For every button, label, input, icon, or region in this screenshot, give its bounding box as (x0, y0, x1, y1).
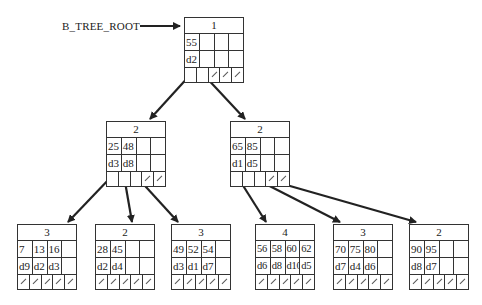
data-cell: d8 (271, 258, 286, 274)
keys-row: 56 58 60 62 (256, 241, 314, 258)
data-cell: d9 (18, 258, 33, 274)
pointer-row (185, 68, 243, 82)
null-pointer-icon (280, 275, 292, 289)
keys-row: 90 95 (410, 241, 468, 258)
key-count: 3 (18, 225, 76, 241)
key-cell: 54 (202, 241, 217, 257)
key-cell: 52 (187, 241, 202, 257)
keys-row: 55 (185, 34, 243, 51)
null-pointer-icon (207, 275, 219, 289)
null-pointer-icon (220, 68, 232, 82)
null-pointer-icon (369, 275, 381, 289)
leaf-node-2: 2 28 45 d2 d4 (95, 224, 155, 290)
key-count: 2 (231, 122, 289, 138)
data-cell (215, 51, 230, 67)
key-cell: 65 (231, 138, 246, 154)
leaf-node-4: 4 56 58 60 62 d6 d8 d10 d5 (255, 224, 315, 290)
key-cell: 70 (334, 241, 349, 257)
null-pointer-icon (172, 275, 184, 289)
key-cell: 85 (246, 138, 261, 154)
key-cell: 90 (410, 241, 425, 257)
key-cell (216, 241, 230, 257)
data-cell (275, 155, 289, 171)
null-pointer-icon (30, 275, 42, 289)
root-node: 1 55 d2 (184, 17, 244, 83)
key-cell (378, 241, 392, 257)
pointer-row (96, 275, 154, 289)
null-pointer-icon (53, 275, 65, 289)
data-row: d2 (185, 51, 243, 68)
data-cell (261, 155, 276, 171)
data-cell: d1 (187, 258, 202, 274)
key-cell: 60 (286, 241, 301, 257)
key-cell (275, 138, 289, 154)
keys-row: 70 75 80 (334, 241, 392, 258)
data-cell (140, 258, 154, 274)
key-cell (229, 34, 243, 50)
null-pointer-icon (219, 275, 230, 289)
data-cell (378, 258, 392, 274)
data-row: d6 d8 d10 d5 (256, 258, 314, 275)
null-pointer-icon (154, 172, 165, 186)
data-cell (229, 51, 243, 67)
key-count: 2 (410, 225, 468, 241)
null-pointer-icon (445, 275, 457, 289)
data-row: d3 d1 d7 (172, 258, 230, 275)
data-cell: d4 (111, 258, 126, 274)
child-pointer (255, 172, 267, 186)
pointer-row (18, 275, 76, 289)
child-pointer (231, 172, 243, 186)
null-pointer-icon (232, 68, 243, 82)
null-pointer-icon (65, 275, 76, 289)
data-row: d7 d4 d6 (334, 258, 392, 275)
data-cell: d7 (425, 258, 440, 274)
key-cell: 48 (122, 138, 137, 154)
data-cell: d5 (246, 155, 261, 171)
key-cell (62, 241, 76, 257)
mid-left-node: 2 25 48 d3 d8 (106, 121, 166, 187)
data-cell: d10 (286, 258, 301, 274)
null-pointer-icon (358, 275, 370, 289)
key-cell (215, 34, 230, 50)
null-pointer-icon (381, 275, 392, 289)
data-cell: d8 (410, 258, 425, 274)
key-cell (140, 241, 154, 257)
data-cell: d2 (185, 51, 200, 67)
data-cell: d3 (107, 155, 122, 171)
pointer-row (172, 275, 230, 289)
key-cell: 28 (96, 241, 111, 257)
null-pointer-icon (120, 275, 132, 289)
keys-row: 65 85 (231, 138, 289, 155)
data-row: d2 d4 (96, 258, 154, 275)
null-pointer-icon (196, 275, 208, 289)
key-cell: 7 (18, 241, 33, 257)
data-cell: d5 (300, 258, 314, 274)
child-pointer (243, 172, 255, 186)
b-tree-root-label: B_TREE_ROOT (62, 20, 140, 32)
leaf-node-6: 2 90 95 d8 d7 (409, 224, 469, 290)
key-count: 2 (96, 225, 154, 241)
null-pointer-icon (278, 172, 289, 186)
null-pointer-icon (143, 275, 154, 289)
data-cell (200, 51, 215, 67)
key-cell (261, 138, 276, 154)
null-pointer-icon (434, 275, 446, 289)
child-pointer (185, 68, 197, 82)
data-cell: d6 (364, 258, 379, 274)
null-pointer-icon (268, 275, 280, 289)
data-cell (454, 258, 468, 274)
keys-row: 25 48 (107, 138, 165, 155)
data-cell: d3 (48, 258, 63, 274)
key-cell: 45 (111, 241, 126, 257)
null-pointer-icon (184, 275, 196, 289)
key-cell (454, 241, 468, 257)
data-cell: d7 (202, 258, 217, 274)
key-cell: 25 (107, 138, 122, 154)
key-count: 3 (172, 225, 230, 241)
pointer-row (334, 275, 392, 289)
data-row: d8 d7 (410, 258, 468, 275)
null-pointer-icon (422, 275, 434, 289)
leaf-node-5: 3 70 75 80 d7 d4 d6 (333, 224, 393, 290)
data-cell: d4 (349, 258, 364, 274)
data-cell (440, 258, 455, 274)
